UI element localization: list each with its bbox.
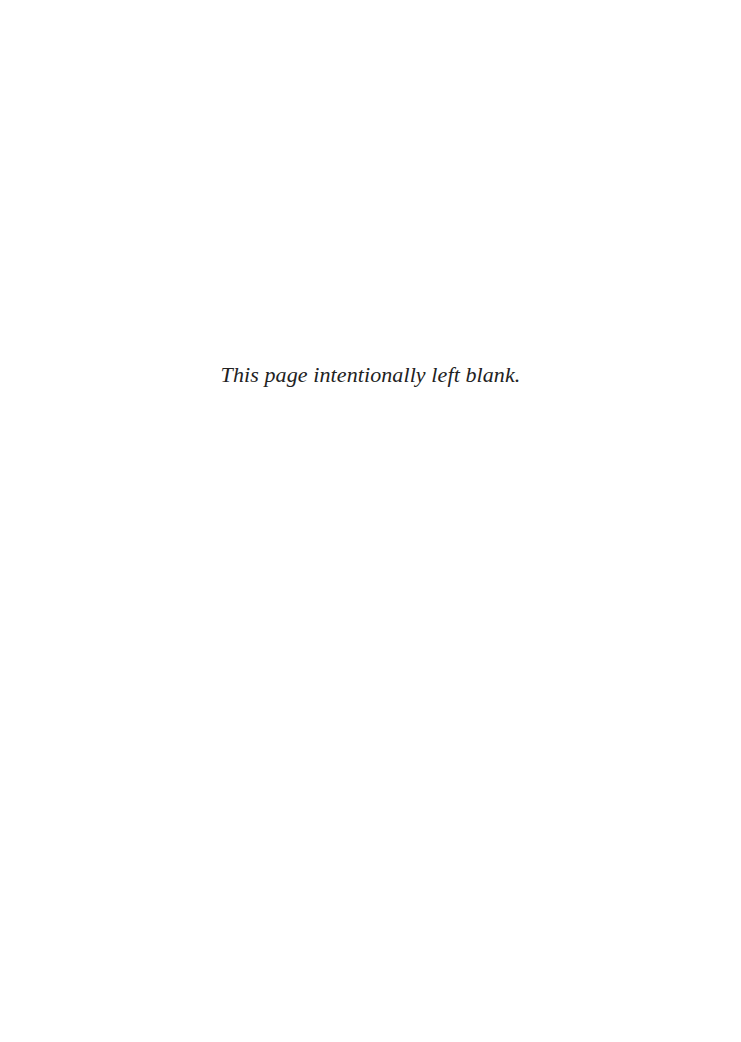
document-page: This page intentionally left blank.: [0, 0, 741, 1042]
blank-page-notice: This page intentionally left blank.: [0, 361, 741, 389]
